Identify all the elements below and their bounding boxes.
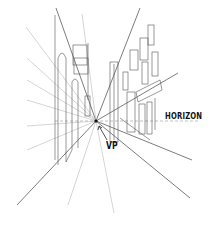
vanishing-point-marker — [94, 119, 97, 122]
horizon-label: HORIZON — [165, 111, 202, 121]
right-buildings — [110, 25, 162, 142]
vanishing-point-label: VP — [106, 140, 118, 151]
guide-lines — [26, 14, 114, 213]
orthogonal-lines — [17, 8, 192, 205]
